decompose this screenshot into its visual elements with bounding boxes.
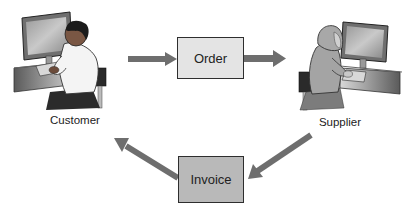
invoice-label: Invoice — [190, 172, 231, 187]
invoice-box: Invoice — [178, 156, 244, 203]
arrow-customer-to-order — [128, 52, 177, 66]
customer-illustration — [14, 12, 106, 110]
order-invoice-diagram: Order Invoice Customer Supplier — [0, 0, 417, 210]
arrow-invoice-to-customer — [114, 138, 178, 178]
order-label: Order — [194, 51, 227, 66]
arrow-supplier-to-invoice — [248, 135, 311, 179]
supplier-illustration — [299, 22, 402, 110]
order-box: Order — [177, 37, 244, 79]
arrow-order-to-supplier — [244, 50, 286, 67]
supplier-label: Supplier — [300, 116, 380, 128]
customer-label: Customer — [30, 114, 120, 126]
